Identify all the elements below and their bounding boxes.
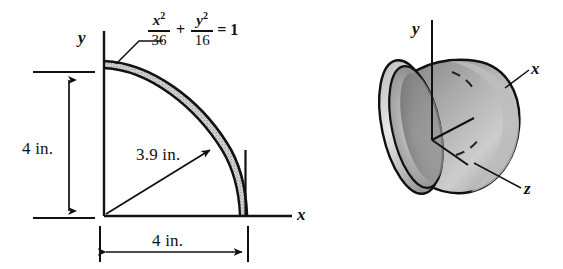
equation-term-2: y2 16	[191, 11, 213, 48]
equation-operator: +	[176, 20, 185, 39]
x-label-leader	[505, 70, 529, 88]
vertical-dimension-label: 4 in.	[22, 140, 53, 157]
outer-ellipse-arc	[104, 61, 247, 215]
shaded-band	[104, 61, 247, 215]
equation-term2-denominator: 16	[192, 32, 213, 49]
equation-term2-exponent: 2	[203, 10, 208, 21]
three-d-z-axis-label: z	[524, 180, 531, 197]
equation-equals-one: = 1	[217, 20, 238, 39]
ellipse-equation: x2 36 + y2 16 = 1	[146, 11, 238, 48]
figure-root: x2 36 + y2 16 = 1 y x 4 in. 4 in. 3.9 in…	[0, 0, 563, 269]
right-three-d-shell	[368, 20, 529, 199]
three-d-x-axis-label: x	[531, 60, 540, 77]
equation-term1-exponent: 2	[160, 10, 165, 21]
equation-term1-numerator: x2	[150, 11, 169, 30]
left-y-axis-label: y	[78, 29, 86, 46]
equation-term-1: x2 36	[148, 11, 170, 48]
three-d-y-axis-label: y	[412, 20, 420, 37]
radial-dimension-label: 3.9 in.	[136, 146, 180, 163]
equation-term2-numerator: y2	[193, 11, 211, 30]
horizontal-dimension-label: 4 in.	[152, 232, 183, 249]
left-x-axis-label: x	[297, 206, 306, 223]
equation-term1-denominator: 36	[149, 32, 170, 49]
